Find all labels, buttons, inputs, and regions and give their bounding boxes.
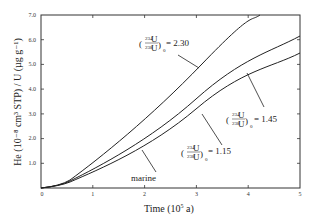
x-tick-4: 4	[247, 191, 250, 197]
x-tick-1: 1	[91, 191, 94, 197]
svg-text:= 1.45: = 1.45	[254, 114, 278, 124]
annotation-marine: marine	[131, 150, 156, 183]
y-tick-5: 5.0	[29, 61, 37, 67]
svg-text:0: 0	[163, 48, 166, 53]
svg-text:marine: marine	[131, 173, 156, 183]
x-tick-5: 5	[299, 191, 302, 197]
annotation-1-15: ( 234 U 238 U ) 0 = 1.15	[181, 114, 232, 162]
svg-text:U: U	[193, 152, 200, 162]
y-tick-6: 6.0	[29, 37, 37, 43]
x-tick-2: 2	[143, 191, 146, 197]
y-tick-3: 3.0	[29, 111, 37, 117]
x-tick-0: 0	[41, 191, 44, 197]
svg-text:0: 0	[250, 124, 253, 129]
y-tick-2: 2.0	[29, 135, 37, 141]
x-axis-label: Time (105 a)	[144, 203, 194, 215]
y-tick-7: 7.0	[29, 12, 37, 18]
y-axis-label: He (10⁻⁸ cm³ STP) / U (µg g⁻¹)	[12, 38, 24, 166]
y-tick-1: 1.0	[29, 160, 37, 166]
curve-1-45	[41, 36, 300, 188]
annotation-2-30: ( 234 U 238 U ) 0 = 2.30	[139, 34, 199, 68]
svg-text:): )	[158, 40, 161, 50]
svg-text:= 2.30: = 2.30	[166, 38, 190, 48]
svg-text:(: (	[139, 39, 142, 49]
svg-text:): )	[245, 116, 248, 126]
svg-text:(: (	[226, 115, 229, 125]
chart: 1.0 2.0 3.0 4.0 5.0 6.0 7.0 0 1 2 3 4 5 …	[0, 0, 312, 220]
svg-text:U: U	[151, 43, 158, 53]
x-tick-3: 3	[195, 191, 198, 197]
svg-text:0: 0	[205, 157, 208, 162]
svg-text:): )	[200, 149, 203, 159]
svg-text:= 1.15: = 1.15	[208, 146, 232, 156]
svg-text:(: (	[181, 148, 184, 158]
svg-text:U: U	[238, 119, 245, 129]
annotation-1-45: ( 234 U 238 U ) 0 = 1.45	[226, 73, 278, 129]
y-tick-4: 4.0	[29, 86, 37, 92]
